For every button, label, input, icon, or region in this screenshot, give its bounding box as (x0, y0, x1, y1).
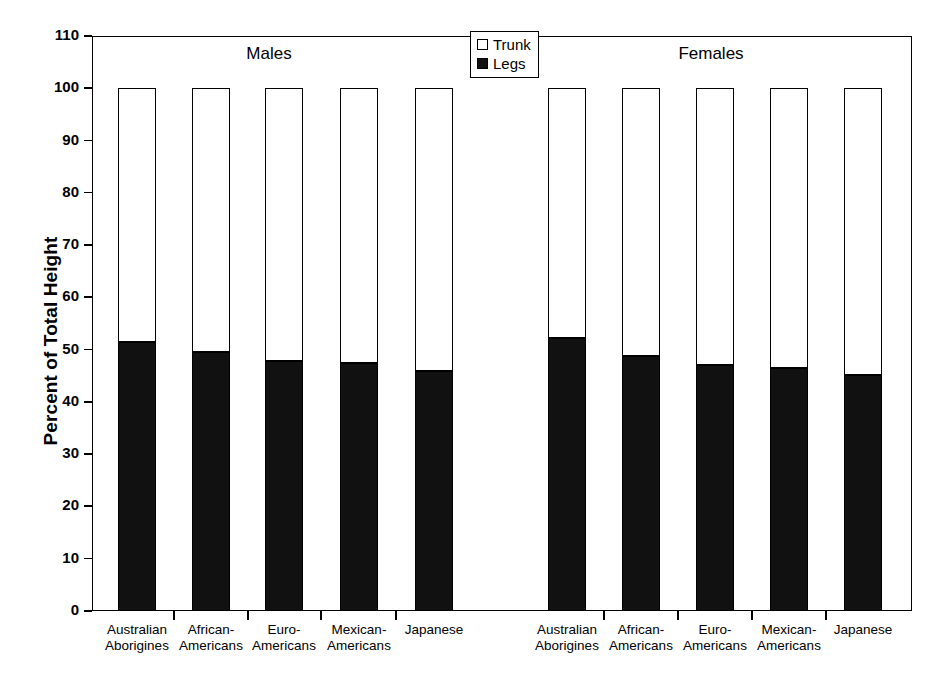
bar-males-4[interactable] (415, 88, 453, 611)
y-tick-label: 90 (62, 130, 79, 150)
bar-segment-trunk[interactable] (265, 88, 303, 361)
bar-segment-legs[interactable] (770, 368, 808, 611)
legend-label-legs: Legs (493, 54, 526, 73)
bar-segment-legs[interactable] (340, 363, 378, 611)
y-tick-label: 60 (62, 286, 79, 306)
category-label-line1: Japanese (374, 622, 494, 638)
category-label-line2: Americans (729, 638, 849, 654)
y-tick-mark (84, 349, 92, 351)
category-label: Japanese (374, 622, 494, 638)
x-tick-mark (603, 611, 605, 620)
bar-segment-legs[interactable] (622, 356, 660, 611)
bar-segment-trunk[interactable] (192, 88, 230, 351)
y-tick-mark (84, 296, 92, 298)
y-tick-label: 50 (62, 339, 79, 359)
category-label-line1: Japanese (803, 622, 923, 638)
y-tick-mark (84, 140, 92, 142)
chart-figure: Percent of Total Height 0102030405060708… (0, 0, 952, 682)
x-tick-mark (751, 611, 753, 620)
trunk-swatch-icon (477, 39, 488, 50)
legend: Trunk Legs (470, 31, 539, 78)
y-tick-label: 70 (62, 234, 79, 254)
y-tick-label: 80 (62, 182, 79, 202)
y-tick-mark (84, 244, 92, 246)
group-title-males: Males (189, 44, 349, 64)
x-tick-mark (320, 611, 322, 620)
bar-segment-trunk[interactable] (844, 88, 882, 375)
bar-females-4[interactable] (844, 88, 882, 611)
category-label-line2: Americans (299, 638, 419, 654)
legend-item-legs[interactable]: Legs (477, 54, 531, 73)
bar-females-0[interactable] (548, 88, 586, 611)
bar-segment-trunk[interactable] (340, 88, 378, 363)
y-tick-mark (84, 87, 92, 89)
y-tick-label: 30 (62, 443, 79, 463)
bar-segment-trunk[interactable] (770, 88, 808, 368)
bar-males-3[interactable] (340, 88, 378, 611)
y-tick-label: 100 (54, 77, 79, 97)
x-tick-mark (173, 611, 175, 620)
y-tick-mark (84, 35, 92, 37)
bar-males-1[interactable] (192, 88, 230, 611)
category-label: Japanese (803, 622, 923, 638)
bar-females-1[interactable] (622, 88, 660, 611)
bar-segment-legs[interactable] (265, 361, 303, 611)
legend-item-trunk[interactable]: Trunk (477, 35, 531, 54)
bar-segment-trunk[interactable] (622, 88, 660, 356)
y-tick-mark (84, 192, 92, 194)
bar-segment-trunk[interactable] (118, 88, 156, 342)
bar-segment-legs[interactable] (192, 352, 230, 611)
y-tick-mark (84, 558, 92, 560)
y-tick-label: 0 (71, 600, 79, 620)
y-tick-mark (84, 453, 92, 455)
y-tick-mark (84, 401, 92, 403)
x-tick-mark (825, 611, 827, 620)
y-tick-label: 40 (62, 391, 79, 411)
y-tick-label: 110 (55, 25, 79, 45)
bar-segment-trunk[interactable] (548, 88, 586, 338)
bar-segment-trunk[interactable] (415, 88, 453, 370)
bar-segment-legs[interactable] (118, 342, 156, 611)
y-tick-label: 20 (62, 495, 79, 515)
bar-segment-legs[interactable] (696, 365, 734, 611)
x-tick-mark (677, 611, 679, 620)
group-title-females: Females (631, 44, 791, 64)
legs-swatch-icon (477, 58, 488, 69)
y-tick-mark (84, 505, 92, 507)
bar-females-2[interactable] (696, 88, 734, 611)
bar-males-2[interactable] (265, 88, 303, 611)
bar-segment-legs[interactable] (548, 338, 586, 611)
y-tick-label: 10 (62, 548, 79, 568)
y-tick-mark (84, 610, 92, 612)
legend-label-trunk: Trunk (493, 35, 531, 54)
bar-segment-trunk[interactable] (696, 88, 734, 365)
x-tick-mark (247, 611, 249, 620)
bar-males-0[interactable] (118, 88, 156, 611)
bar-segment-legs[interactable] (415, 371, 453, 611)
bar-females-3[interactable] (770, 88, 808, 611)
x-tick-mark (395, 611, 397, 620)
bar-segment-legs[interactable] (844, 375, 882, 611)
